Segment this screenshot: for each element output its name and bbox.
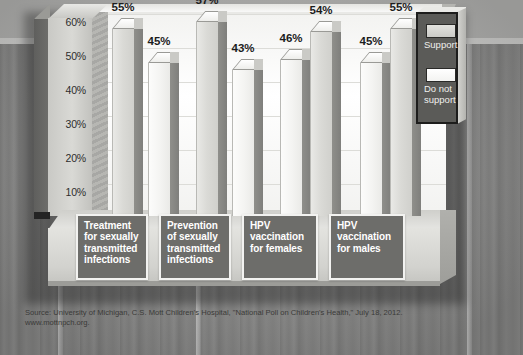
category-line-1: Treatment bbox=[84, 220, 131, 231]
legend-panel: Support Do not support bbox=[416, 12, 458, 124]
category-line-2: vaccination bbox=[337, 231, 391, 242]
screenshot-stage: 60% 50% 40% 30% 20% 10% 0% 55% bbox=[0, 0, 523, 355]
bar-value-label: 54% bbox=[309, 4, 332, 16]
bar-value-label: 43% bbox=[231, 42, 254, 54]
bar-value-label: 45% bbox=[147, 35, 170, 47]
legend-swatch-support bbox=[426, 24, 456, 38]
bar-value-label: 57% bbox=[195, 0, 218, 6]
category-line-1: Prevention bbox=[167, 220, 218, 231]
category-label-treatment-sti: Treatment for sexually transmitted infec… bbox=[76, 214, 148, 280]
category-line-4: infections bbox=[84, 254, 130, 265]
category-line-3: for females bbox=[250, 243, 302, 254]
legend-label-do-not-support: Do not support bbox=[424, 84, 462, 105]
legend: Support Do not support bbox=[414, 12, 458, 124]
category-label-hpv-males: HPV vaccination for males bbox=[329, 214, 405, 280]
bar-value-label: 55% bbox=[111, 1, 134, 13]
legend-label-support: Support bbox=[424, 40, 462, 51]
bar-value-label: 46% bbox=[279, 32, 302, 44]
category-line-1: HPV bbox=[250, 220, 270, 231]
category-line-1: HPV bbox=[337, 220, 357, 231]
category-label-hpv-females: HPV vaccination for females bbox=[242, 214, 318, 280]
category-line-2: of sexually bbox=[167, 231, 218, 242]
source-line-2: www.mottnpch.org. bbox=[25, 318, 455, 328]
bar-value-label: 55% bbox=[389, 1, 412, 13]
source-note: Source: University of Michigan, C.S. Mot… bbox=[25, 308, 455, 328]
category-line-4: infections bbox=[167, 254, 213, 265]
legend-side-edge bbox=[457, 8, 466, 124]
legend-label-line-1: Do not bbox=[424, 83, 452, 94]
chart-panel: 60% 50% 40% 30% 20% 10% 0% 55% bbox=[18, 4, 460, 298]
bar-value-label: 45% bbox=[359, 35, 382, 47]
source-line-1: Source: University of Michigan, C.S. Mot… bbox=[25, 308, 403, 317]
legend-label-line-2: support bbox=[424, 94, 456, 105]
category-line-2: vaccination bbox=[250, 231, 304, 242]
category-label-prevention-sti: Prevention of sexually transmitted infec… bbox=[159, 214, 231, 280]
category-line-2: for sexually bbox=[84, 231, 138, 242]
legend-swatch-do-not-support bbox=[426, 68, 456, 82]
category-line-3: transmitted bbox=[167, 243, 220, 254]
category-line-3: for males bbox=[337, 243, 381, 254]
category-line-3: transmitted bbox=[84, 243, 137, 254]
